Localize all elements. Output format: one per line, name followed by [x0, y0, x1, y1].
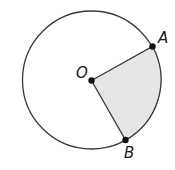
point-a [149, 43, 155, 49]
label-b: B [124, 144, 134, 162]
shaded-sector [92, 47, 162, 141]
point-o [88, 77, 94, 83]
circle-sector-diagram: O A B [0, 0, 175, 170]
label-o: O [76, 64, 88, 82]
label-a: A [157, 29, 168, 47]
point-b [122, 137, 128, 143]
